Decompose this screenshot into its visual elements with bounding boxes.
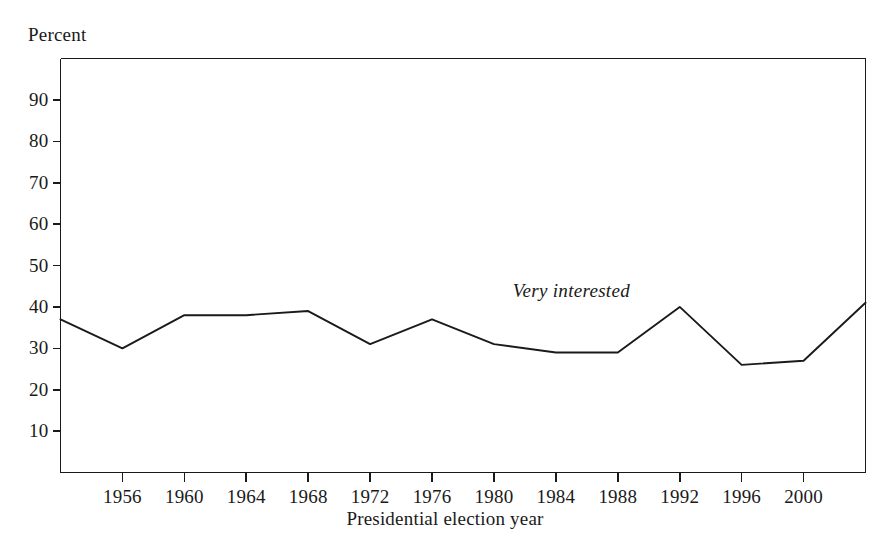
y-tick-label: 90 bbox=[9, 90, 49, 109]
x-axis-title: Presidential election year bbox=[0, 508, 890, 530]
x-axis-ticks bbox=[122, 473, 803, 482]
y-tick-label: 80 bbox=[9, 131, 49, 150]
x-tick-label: 1972 bbox=[338, 487, 402, 506]
x-tick-label: 1996 bbox=[710, 487, 774, 506]
x-tick-label: 1988 bbox=[586, 487, 650, 506]
chart-figure: Percent 102030405060708090 1956196019641… bbox=[0, 0, 890, 559]
x-tick-label: 1956 bbox=[90, 487, 154, 506]
data-line-very-interested bbox=[61, 303, 866, 365]
x-tick-label: 1960 bbox=[152, 487, 216, 506]
plot-area bbox=[0, 0, 890, 559]
y-tick-label: 40 bbox=[9, 297, 49, 316]
plot-frame bbox=[61, 59, 866, 473]
y-tick-label: 70 bbox=[9, 173, 49, 192]
x-tick-label: 1980 bbox=[462, 487, 526, 506]
x-tick-label: 1984 bbox=[524, 487, 588, 506]
x-tick-label: 1964 bbox=[214, 487, 278, 506]
y-axis-ticks bbox=[53, 100, 61, 431]
x-tick-label: 1992 bbox=[648, 487, 712, 506]
x-tick-label: 2000 bbox=[772, 487, 836, 506]
x-tick-label: 1976 bbox=[400, 487, 464, 506]
y-tick-label: 50 bbox=[9, 256, 49, 275]
y-tick-label: 60 bbox=[9, 214, 49, 233]
y-tick-label: 20 bbox=[9, 380, 49, 399]
y-tick-label: 30 bbox=[9, 338, 49, 357]
x-tick-label: 1968 bbox=[276, 487, 340, 506]
series-label-very-interested: Very interested bbox=[513, 281, 630, 300]
y-tick-label: 10 bbox=[9, 421, 49, 440]
